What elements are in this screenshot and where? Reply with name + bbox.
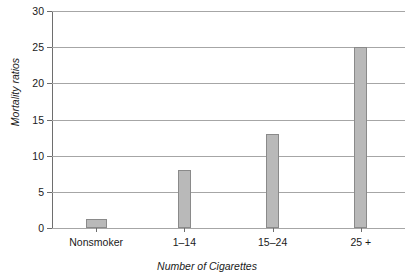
- plot-area: [52, 11, 405, 228]
- x-axis-tick-mark: [273, 228, 274, 232]
- y-axis-tick-label: 0: [38, 223, 44, 234]
- y-axis-tick-label: 25: [32, 42, 44, 53]
- x-axis-tick-label: 15–24: [258, 236, 287, 248]
- y-axis-tick-label: 5: [38, 187, 44, 198]
- bar: [178, 170, 191, 228]
- gridline: [52, 156, 405, 157]
- x-axis-tick-label: 1–14: [173, 236, 196, 248]
- bar: [354, 47, 367, 228]
- gridline: [52, 120, 405, 121]
- bar: [266, 134, 279, 228]
- bar: [86, 219, 107, 228]
- y-axis-tick-label: 30: [32, 6, 44, 17]
- y-axis-tick-mark: [47, 11, 52, 12]
- y-axis-tick-mark: [47, 192, 52, 193]
- x-axis-tick-mark: [184, 228, 185, 232]
- y-axis-tick-mark: [47, 47, 52, 48]
- x-axis-tick-mark: [361, 228, 362, 232]
- x-axis-tick-label: 25 +: [351, 236, 372, 248]
- chart-title: [0, 0, 414, 3]
- y-axis-tick-label: 20: [32, 78, 44, 89]
- y-axis-tick-mark: [47, 120, 52, 121]
- x-axis-tick-mark: [96, 228, 97, 232]
- gridline: [52, 192, 405, 193]
- y-axis-tick-mark: [47, 156, 52, 157]
- x-axis-title: Number of Cigarettes: [0, 260, 414, 272]
- gridline: [52, 47, 405, 48]
- bar-chart: Mortality ratios 051015202530 Nonsmoker1…: [0, 0, 414, 278]
- y-axis-title: Mortality ratios: [9, 49, 21, 135]
- y-axis-tick-mark: [47, 83, 52, 84]
- gridline: [52, 228, 405, 229]
- gridline: [52, 83, 405, 84]
- y-axis-tick-label: 10: [32, 150, 44, 161]
- gridline: [52, 11, 405, 12]
- x-axis-tick-label: Nonsmoker: [69, 236, 123, 248]
- y-axis-tick-labels: 051015202530: [22, 11, 44, 228]
- y-axis-tick-mark: [47, 228, 52, 229]
- y-axis-tick-label: 15: [32, 114, 44, 125]
